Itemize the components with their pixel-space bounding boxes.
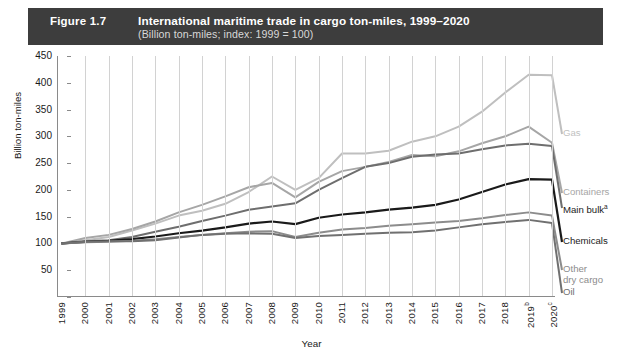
x-axis-tick-label: 2009 <box>289 302 300 324</box>
y-axis-tick-label: 100 <box>18 238 52 248</box>
series-label-oil: Oil <box>563 287 575 298</box>
gridline <box>459 56 460 296</box>
gridline <box>342 56 343 296</box>
x-axis-tick-label: 2013 <box>383 302 394 324</box>
gridline <box>505 56 506 296</box>
y-axis-tick-label: 150 <box>18 212 52 222</box>
gridlines <box>58 56 555 296</box>
gridline <box>435 56 436 296</box>
gridline <box>85 56 86 296</box>
x-axis-tick-label: 2010 <box>313 302 324 324</box>
x-axis-title: Year <box>0 338 623 349</box>
x-axis-tick-label: 2002 <box>126 302 137 324</box>
gridline <box>249 56 250 296</box>
gridline <box>272 56 273 296</box>
series-label-gas: Gas <box>563 128 581 139</box>
gridline <box>132 56 133 296</box>
x-axis-tick-label: 2003 <box>149 302 160 324</box>
series-label-main-bulk: Main bulka <box>563 202 608 216</box>
series-label-group: GasContainersMain bulkaChemicalsOtherdry… <box>563 56 623 306</box>
plot-area <box>57 56 555 297</box>
gridline <box>319 56 320 296</box>
x-axis-tick-label: 2004 <box>173 302 184 324</box>
series-label-chemicals: Chemicals <box>563 236 608 247</box>
y-axis-tick-label: 450 <box>18 51 52 61</box>
x-axis-tick-label: 2012 <box>359 302 370 324</box>
x-axis-tick-label: 2000 <box>79 302 90 324</box>
x-axis-tick-label: 2015 <box>429 302 440 324</box>
figure-number: Figure 1.7 <box>50 15 106 27</box>
x-axis-tick-label: 2011 <box>336 302 347 323</box>
gridline <box>552 56 553 296</box>
y-axis-tick-label: 200 <box>18 185 52 195</box>
x-axis-tick-label: 2019b <box>523 302 534 328</box>
x-axis-tick-label: 2017 <box>476 302 487 324</box>
x-axis-tick-label: 2014 <box>406 302 417 324</box>
y-axis-title: Billion ton-miles <box>12 61 23 191</box>
figure-title: International maritime trade in cargo to… <box>138 14 470 28</box>
gridline <box>109 56 110 296</box>
x-axis-tick-label: 2001 <box>103 302 114 324</box>
y-axis-tick-label: 50 <box>18 265 52 275</box>
x-axis-tick-label: 2006 <box>219 302 230 324</box>
gridline <box>225 56 226 296</box>
gridline <box>412 56 413 296</box>
gridline <box>482 56 483 296</box>
x-axis-tick-label: 2007 <box>243 302 254 324</box>
y-axis-tick-label: 300 <box>18 131 52 141</box>
x-axis-tick-label: 2008 <box>266 302 277 324</box>
x-axis-tick-label: 2018 <box>499 302 510 324</box>
gridline <box>202 56 203 296</box>
y-axis-tick-label: 350 <box>18 105 52 115</box>
x-axis-tick-label: 2016 <box>453 302 464 324</box>
figure-container: Figure 1.7 International maritime trade … <box>0 0 623 356</box>
figure-header-bar: Figure 1.7 International maritime trade … <box>28 8 603 45</box>
series-label-containers: Containers <box>563 187 609 198</box>
gridline <box>365 56 366 296</box>
y-axis-tick-label: 400 <box>18 78 52 88</box>
y-axis-tick-label: 250 <box>18 158 52 168</box>
figure-subtitle: (Billion ton-miles; index: 1999 = 100) <box>138 28 313 40</box>
gridline <box>529 56 530 296</box>
gridline <box>155 56 156 296</box>
gridline <box>179 56 180 296</box>
gridline <box>295 56 296 296</box>
x-axis-tick-label: 2020c <box>546 302 557 328</box>
gridline <box>389 56 390 296</box>
series-label-other-dry-cargo: Otherdry cargo <box>563 264 603 285</box>
x-axis-tick-label: 2005 <box>196 302 207 324</box>
x-axis-tick-label: 1999 <box>56 302 67 324</box>
